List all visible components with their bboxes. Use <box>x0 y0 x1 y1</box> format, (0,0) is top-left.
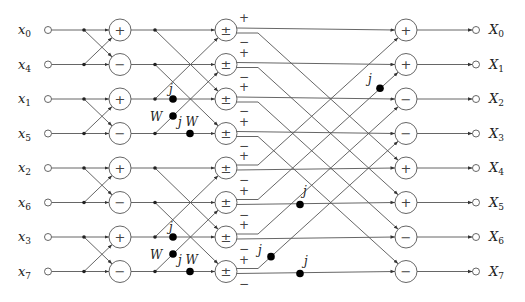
stage1-op: − <box>115 264 126 279</box>
input-terminal <box>45 165 52 172</box>
stage1-op: − <box>115 57 126 72</box>
input-label: x3 <box>18 229 31 246</box>
stage3-op: + <box>401 57 412 72</box>
stage2-op: ± <box>221 264 232 279</box>
twiddle-label: j <box>365 72 372 86</box>
stage3-op: − <box>401 230 412 245</box>
junction-dot <box>82 166 86 170</box>
twiddle-dot <box>186 268 194 276</box>
output-terminal <box>473 234 480 241</box>
wire <box>155 168 218 229</box>
stage2-op: ± <box>221 161 232 176</box>
stage3-op: + <box>401 195 412 210</box>
plus-sign: + <box>239 46 249 60</box>
output-label: X2 <box>488 91 504 108</box>
junction-dot <box>82 201 86 205</box>
stage3-op: − <box>401 126 412 141</box>
output-label: X3 <box>488 126 504 143</box>
wire <box>84 30 112 57</box>
twiddle-label: j <box>255 243 262 257</box>
stage1-op: − <box>115 126 126 141</box>
junction-dot <box>153 166 157 170</box>
twiddle-dot <box>296 270 304 278</box>
input-terminal <box>45 61 52 68</box>
stage3-op: − <box>401 264 412 279</box>
stage2-op: ± <box>221 230 232 245</box>
twiddle-dot <box>267 253 275 261</box>
plus-sign: + <box>239 11 249 25</box>
junction-dot <box>82 97 86 101</box>
output-terminal <box>473 27 480 34</box>
output-label: X0 <box>488 22 504 39</box>
stage2-op: ± <box>221 126 232 141</box>
twiddle-label: W <box>150 110 164 124</box>
wire <box>84 176 112 203</box>
stage3-op: + <box>401 23 412 38</box>
output-label: X6 <box>488 229 504 246</box>
output-label: X4 <box>488 160 504 177</box>
input-label: x1 <box>18 91 31 108</box>
plus-sign: + <box>239 218 249 232</box>
output-terminal <box>473 96 480 103</box>
input-label: x7 <box>18 264 31 281</box>
output-terminal <box>473 268 480 275</box>
output-terminal <box>473 130 480 137</box>
junction-dot <box>153 201 157 205</box>
junction-dot <box>82 28 86 32</box>
junction-dot <box>153 63 157 67</box>
junction-dot <box>82 270 86 274</box>
wire <box>155 176 218 237</box>
wire <box>84 237 112 264</box>
stage3-op: + <box>401 161 412 176</box>
twiddle-label: j W <box>175 253 200 267</box>
minus-sign: − <box>239 277 249 291</box>
twiddle-label: j <box>301 254 308 268</box>
input-label: x0 <box>18 22 31 39</box>
input-terminal <box>45 268 52 275</box>
plus-sign: + <box>239 149 249 163</box>
twiddle-dot <box>186 130 194 138</box>
twiddle-label: j W <box>175 115 200 129</box>
wire <box>84 245 112 272</box>
junction-dot <box>153 270 157 274</box>
wire <box>84 168 112 195</box>
junction-dot <box>82 235 86 239</box>
twiddle-dot <box>376 84 384 92</box>
plus-sign: + <box>239 80 249 94</box>
input-terminal <box>45 199 52 206</box>
plus-sign: + <box>239 253 249 267</box>
labels: x0x4x1x5x2x6x3x7jWj WjWj W+−+−+−+−+−+−+−… <box>18 11 504 291</box>
twiddle-dot <box>169 112 177 120</box>
input-label: x5 <box>18 126 31 143</box>
stage2-op: ± <box>221 57 232 72</box>
output-label: X5 <box>488 195 504 212</box>
input-label: x6 <box>18 195 31 212</box>
twiddle-dot <box>169 95 177 103</box>
input-terminal <box>45 234 52 241</box>
twiddle-label: j <box>166 220 173 234</box>
stage1-op: + <box>115 23 126 38</box>
output-label: X1 <box>488 57 504 74</box>
input-terminal <box>45 96 52 103</box>
wire <box>84 107 112 134</box>
junction-dot <box>82 132 86 136</box>
output-label: X7 <box>488 264 504 281</box>
fft-flow-graph: x0x4x1x5x2x6x3x7jWj WjWj W+−+−+−+−+−+−+−… <box>0 0 525 302</box>
input-terminal <box>45 130 52 137</box>
wire <box>236 28 395 30</box>
stage1-op: + <box>115 92 126 107</box>
twiddle-dot <box>169 250 177 258</box>
twiddle-dot <box>169 233 177 241</box>
wire <box>84 38 112 65</box>
twiddle-label: W <box>150 248 164 262</box>
nodes <box>45 19 480 283</box>
input-label: x2 <box>18 160 31 177</box>
input-label: x4 <box>18 57 31 74</box>
stage2-op: ± <box>221 92 232 107</box>
wire <box>155 38 218 99</box>
junction-dot <box>153 132 157 136</box>
stage3-op: − <box>401 92 412 107</box>
plus-sign: + <box>239 184 249 198</box>
junction-dot <box>153 97 157 101</box>
wire <box>236 33 398 160</box>
